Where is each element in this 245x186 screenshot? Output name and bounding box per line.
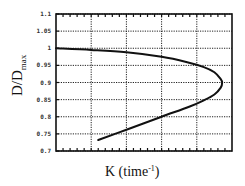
grid: [56, 14, 232, 151]
y-axis-label: D/Dmax: [9, 54, 28, 96]
y-tick-label: 1.1: [40, 10, 51, 17]
y-tick-labels: 1.11.0510.950.90.850.80.750.7: [37, 10, 52, 154]
y-tick-label: 0.8: [40, 113, 51, 120]
y-tick-label: 1: [47, 44, 51, 51]
y-tick-label: 0.9: [40, 79, 51, 86]
x-axis-label: K (time-1): [105, 164, 160, 180]
y-tick-label: 1.05: [37, 27, 52, 34]
y-tick-label: 0.85: [37, 96, 52, 103]
y-tick-label: 0.75: [37, 130, 52, 137]
y-tick-label: 0.95: [37, 61, 52, 68]
chart: 1.11.0510.950.90.850.80.750.7 K (time-1)…: [0, 0, 245, 186]
y-tick-label: 0.7: [40, 147, 51, 154]
